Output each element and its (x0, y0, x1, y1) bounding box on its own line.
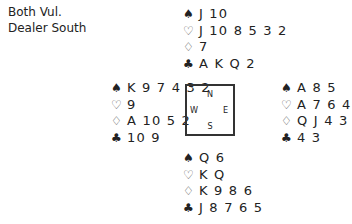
west-hearts: 9 (127, 97, 136, 112)
north-spades: J 10 (199, 6, 228, 21)
east-hearts: A 7 6 4 (297, 97, 352, 112)
south-clubs: J 8 7 6 5 (199, 200, 263, 215)
south-hearts: K Q (199, 167, 226, 182)
diamond-icon: ♢ (183, 39, 199, 56)
dealer-label: Dealer South (8, 20, 86, 36)
club-icon: ♣ (183, 200, 199, 217)
vulnerability-label: Both Vul. (8, 4, 86, 20)
spade-icon: ♠ (111, 80, 127, 97)
east-spades: A 8 5 (297, 80, 337, 95)
south-diamonds: K 9 8 6 (199, 183, 253, 198)
spade-icon: ♠ (183, 150, 199, 167)
diamond-icon: ♢ (111, 113, 127, 130)
club-icon: ♣ (281, 130, 297, 147)
south-spades: Q 6 (199, 150, 225, 165)
deal-info: Both Vul. Dealer South (8, 4, 86, 36)
club-icon: ♣ (111, 130, 127, 147)
heart-icon: ♡ (281, 97, 297, 114)
south-hand: ♠Q 6 ♡K Q ♢K 9 8 6 ♣J 8 7 6 5 (183, 150, 263, 216)
north-clubs: A K Q 2 (199, 56, 256, 71)
diamond-icon: ♢ (281, 113, 297, 130)
compass-south: S (207, 121, 212, 131)
spade-icon: ♠ (183, 6, 199, 23)
east-diamonds: Q J 4 3 (297, 113, 348, 128)
heart-icon: ♡ (183, 167, 199, 184)
club-icon: ♣ (183, 56, 199, 73)
north-diamonds: 7 (199, 39, 208, 54)
north-hearts: J 10 8 5 3 2 (199, 23, 288, 38)
heart-icon: ♡ (111, 97, 127, 114)
compass-west: W (190, 105, 198, 115)
compass-box: N W E S (185, 84, 235, 136)
east-hand: ♠A 8 5 ♡A 7 6 4 ♢Q J 4 3 ♣4 3 (281, 80, 352, 146)
heart-icon: ♡ (183, 23, 199, 40)
west-clubs: 10 9 (127, 130, 161, 145)
diamond-icon: ♢ (183, 183, 199, 200)
east-clubs: 4 3 (297, 130, 321, 145)
spade-icon: ♠ (281, 80, 297, 97)
compass-east: E (223, 105, 228, 115)
compass-north: N (207, 89, 213, 99)
west-diamonds: A 10 5 2 (127, 113, 191, 128)
north-hand: ♠J 10 ♡J 10 8 5 3 2 ♢7 ♣A K Q 2 (183, 6, 288, 72)
